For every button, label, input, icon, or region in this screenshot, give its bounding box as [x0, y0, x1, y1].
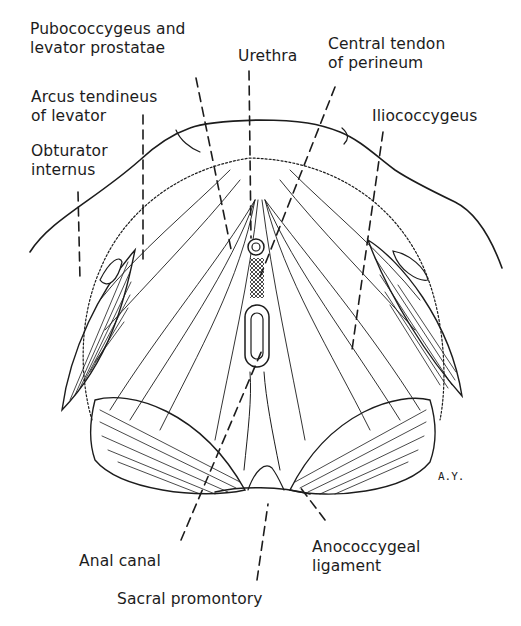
label-urethra: Urethra — [238, 47, 297, 66]
anal-canal-opening — [245, 305, 269, 367]
leader-urethra — [249, 71, 251, 238]
label-anococcygeal-ligament: Anococcygeal ligament — [312, 538, 421, 576]
artist-signature: A.Y. — [438, 470, 465, 483]
leader-iliococcygeus — [352, 132, 383, 350]
label-anal-canal: Anal canal — [79, 552, 161, 571]
leader-sacral-promontory — [257, 504, 268, 580]
right-lower-lobe — [290, 398, 435, 494]
label-central-tendon: Central tendon of perineum — [328, 35, 445, 73]
left-lower-lobe — [90, 398, 245, 494]
urethra-opening — [248, 239, 264, 255]
label-iliococcygeus: Iliococcygeus — [372, 107, 477, 126]
leader-pubococcygeus — [196, 78, 232, 254]
label-pubococcygeus: Pubococcygeus and levator prostatae — [30, 20, 186, 58]
label-sacral-promontory: Sacral promontory — [117, 590, 263, 609]
leader-anococcygeal — [300, 487, 325, 520]
label-arcus-tendineus: Arcus tendineus of levator — [31, 88, 157, 126]
label-obturator-internus: Obturator internus — [31, 142, 108, 180]
leader-anal-canal — [181, 350, 262, 540]
